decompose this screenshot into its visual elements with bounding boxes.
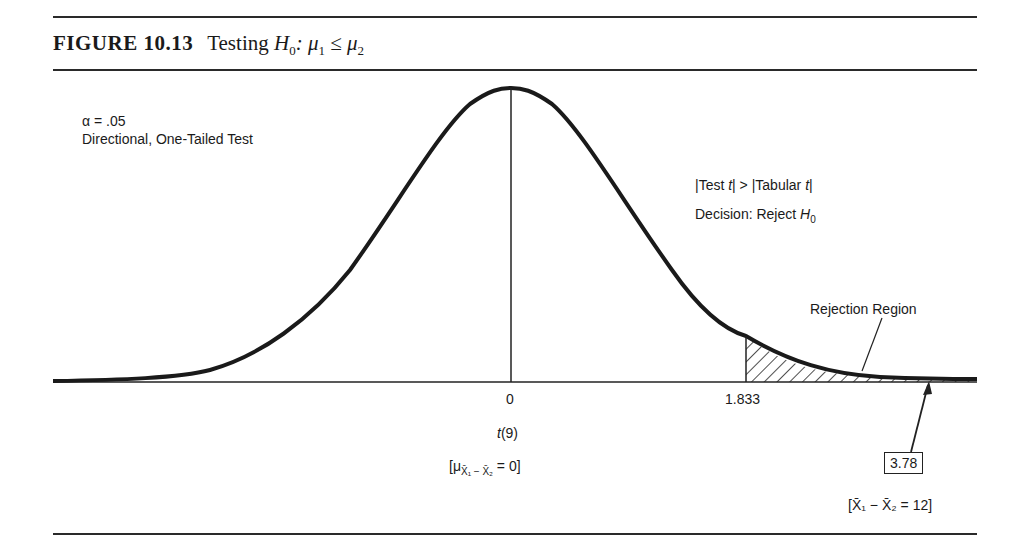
cmp-left: |Test xyxy=(695,177,728,193)
decision-label: Decision: Reject H0 xyxy=(695,206,816,225)
decision-text: Decision: Reject xyxy=(695,206,800,222)
arrowhead-icon xyxy=(923,381,932,395)
mean-open: [μ xyxy=(449,458,461,474)
cmp-right: | xyxy=(809,177,813,193)
alpha-label: α = .05 xyxy=(82,113,126,129)
difference-label: [X̄₁ − X̄₂ = 12] xyxy=(848,497,932,513)
rejection-pointer xyxy=(862,318,882,371)
bottom-rule xyxy=(53,533,977,535)
cmp-mid: | > |Tabular xyxy=(732,177,805,193)
test-type-label: Directional, One-Tailed Test xyxy=(82,131,253,147)
comparison-label: |Test t| > |Tabular t| xyxy=(695,177,813,193)
tick-critical: 1.833 xyxy=(725,391,760,407)
rejection-region-label: Rejection Region xyxy=(810,301,917,317)
decision-sub: 0 xyxy=(810,214,816,225)
mean-close: = 0] xyxy=(493,458,521,474)
dist-df: (9) xyxy=(501,425,518,441)
mean-sub: X̄₁ − X̄₂ xyxy=(461,466,493,477)
test-value-box: 3.78 xyxy=(884,452,923,474)
mean-label: [μX̄₁ − X̄₂ = 0] xyxy=(449,458,521,477)
test-value-arrow xyxy=(911,385,928,452)
distribution-label: t(9) xyxy=(497,425,518,441)
tick-zero: 0 xyxy=(506,391,514,407)
decision-h: H xyxy=(800,206,810,222)
